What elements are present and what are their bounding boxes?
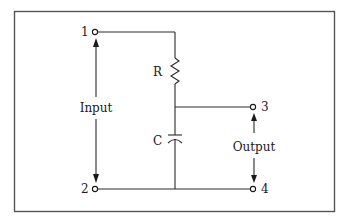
terminal-3-label: 3 — [261, 100, 269, 114]
resistor-label: R — [153, 65, 163, 79]
output-label: Output — [233, 140, 276, 154]
terminal-2-label: 2 — [81, 182, 89, 196]
terminal-2 — [92, 186, 97, 191]
output-arrow-down-icon — [251, 175, 257, 183]
terminal-1-label: 1 — [81, 25, 89, 39]
input-arrow-down-icon — [93, 174, 99, 183]
input-arrow-up-icon — [93, 38, 99, 47]
input-label: Input — [80, 101, 113, 115]
terminal-1 — [92, 29, 97, 34]
rc-circuit-diagram: 1 2 3 4 R C Input Output — [0, 0, 345, 222]
terminal-3 — [250, 104, 255, 109]
output-arrow-up-icon — [251, 113, 257, 121]
resistor-symbol — [171, 58, 179, 84]
terminal-4-label: 4 — [261, 182, 269, 196]
terminal-4 — [250, 186, 255, 191]
capacitor-label: C — [153, 134, 162, 148]
